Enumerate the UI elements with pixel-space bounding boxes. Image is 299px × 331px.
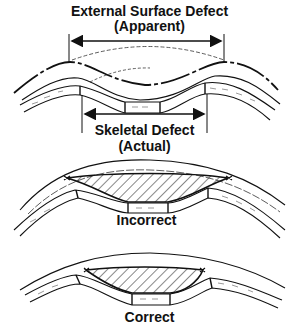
defect-panel xyxy=(14,34,280,133)
diagram-drawing xyxy=(0,0,299,331)
correct-graft xyxy=(86,267,203,293)
correct-panel xyxy=(20,253,285,308)
original-contour-inner xyxy=(90,68,150,82)
external-defect-sublabel: (Apparent) xyxy=(0,19,299,33)
bone-outer-table xyxy=(20,83,275,110)
correct-caption: Correct xyxy=(0,310,299,324)
incorrect-caption: Incorrect xyxy=(0,213,293,227)
skin-surface-inner xyxy=(22,76,280,104)
skeletal-defect-label: Skeletal Defect xyxy=(0,123,289,137)
skeletal-defect-sublabel: (Actual) xyxy=(0,139,289,153)
bone-defect-diagram: External Surface Defect (Apparent) Skele… xyxy=(0,0,299,331)
external-defect-label: External Surface Defect xyxy=(0,4,299,18)
incorrect-graft xyxy=(67,174,228,203)
original-contour-outer xyxy=(72,47,224,61)
